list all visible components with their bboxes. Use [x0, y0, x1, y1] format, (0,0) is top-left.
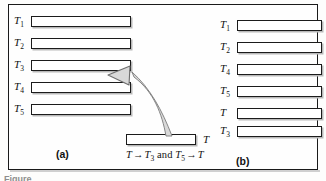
list-item: T3 [14, 58, 131, 73]
figure-bottom-caption: Figure [4, 174, 32, 181]
list-item: T [220, 106, 322, 121]
row-label-b-5: T [220, 106, 237, 121]
bar-b-1 [237, 20, 322, 31]
panel-caption-b: (b) [236, 155, 249, 167]
bar-b-5 [237, 108, 322, 119]
list-item: T4 [14, 80, 131, 95]
bar-b-6 [237, 126, 322, 137]
bar-b-4 [237, 86, 322, 97]
list-item: T4 [220, 62, 322, 77]
row-label-b-3: T4 [220, 62, 237, 77]
figure-container: T1 T2 T3 T4 T5 (a) T1 T2 T4 T5 T T3 [0, 0, 326, 181]
list-item: T2 [14, 36, 131, 51]
bar-center-t [126, 134, 196, 145]
row-label-a-4: T4 [14, 80, 31, 95]
row-label-a-1: T1 [14, 14, 31, 29]
bar-a-4 [31, 82, 131, 93]
list-item: T2 [220, 40, 322, 55]
list-item: T3 [220, 124, 322, 139]
transition-formula: T→T3 and T5→T [126, 149, 204, 163]
row-label-b-6: T3 [220, 124, 237, 139]
bar-b-3 [237, 64, 322, 75]
bar-a-5 [31, 104, 131, 115]
bar-b-2 [237, 42, 322, 53]
row-label-b-2: T2 [220, 40, 237, 55]
row-label-b-1: T1 [220, 18, 237, 33]
bar-a-3 [31, 60, 131, 71]
panel-caption-a: (a) [56, 148, 69, 160]
list-item: T5 [220, 84, 322, 99]
row-label-b-4: T5 [220, 84, 237, 99]
row-label-a-5: T5 [14, 102, 31, 117]
row-label-a-3: T3 [14, 58, 31, 73]
center-bar-group: T [126, 133, 209, 145]
list-item: T1 [14, 14, 131, 29]
row-label-a-2: T2 [14, 36, 31, 51]
center-bar-label: T [203, 133, 209, 145]
bar-a-2 [31, 38, 131, 49]
list-item: T1 [220, 18, 322, 33]
list-item: T5 [14, 102, 131, 117]
frame-shadow [10, 170, 320, 172]
bar-a-1 [31, 16, 131, 27]
